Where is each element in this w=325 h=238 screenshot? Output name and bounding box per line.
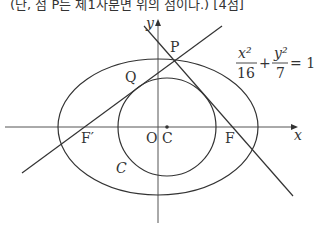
focus-fprime-label: F′ — [81, 130, 94, 146]
ellipse-equation: x² 16 + y² 7 = 1 — [236, 45, 315, 81]
eq-numerator-1: x² — [238, 45, 252, 61]
y-axis-arrow-icon — [155, 19, 161, 26]
eq-rhs: = 1 — [290, 55, 315, 71]
eq-numerator-2: y² — [273, 45, 288, 61]
point-q-label: Q — [125, 69, 136, 85]
eq-denominator-2: 7 — [276, 65, 285, 81]
ellipse-circle-diagram: y x P Q F′ F O C C x² 16 + y² 7 = 1 — [0, 0, 325, 238]
diagram: (단, 점 P는 제1사분면 위의 점이다.) [4점] y x P Q F′ … — [0, 0, 325, 238]
circle-c-label: C — [116, 160, 127, 176]
center-c-label: C — [162, 130, 173, 146]
y-axis-label: y — [145, 15, 155, 31]
x-axis-label: x — [294, 127, 302, 143]
eq-denominator-1: 16 — [237, 65, 255, 81]
line-fprime-p — [22, 26, 222, 173]
center-c-dot — [165, 125, 169, 129]
line-p-f — [144, 26, 293, 196]
origin-o-label: O — [146, 130, 157, 146]
point-p-label: P — [170, 39, 179, 55]
eq-plus: + — [259, 55, 271, 71]
focus-f-label: F — [225, 130, 235, 146]
